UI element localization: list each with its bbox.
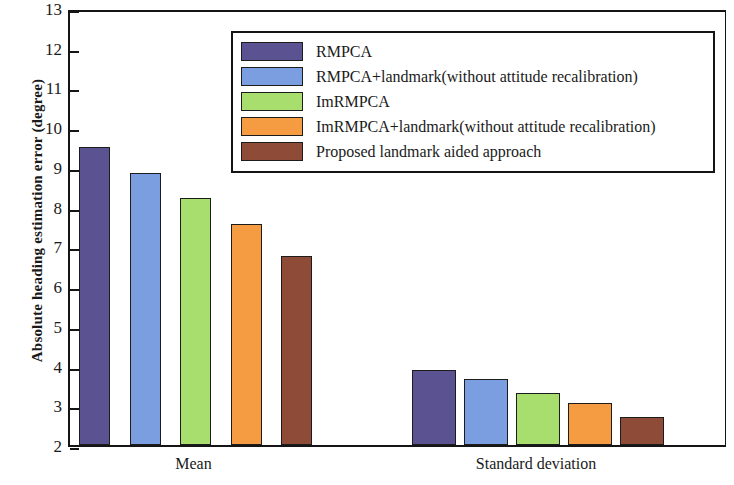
legend-color-swatch [241, 142, 303, 161]
y-axis-tick-label: 5 [16, 319, 62, 336]
y-axis-tick-label: 8 [16, 200, 62, 217]
x-axis-tick-label: Mean [17, 455, 370, 473]
y-axis-tick [70, 448, 79, 450]
y-axis-tick-label: 13 [16, 1, 62, 18]
bar [568, 403, 612, 445]
chart-legend: RMPCARMPCA+landmark(without attitude rec… [231, 31, 715, 173]
y-axis-tick-label: 9 [16, 160, 62, 177]
x-axis-tick-label: Standard deviation [350, 455, 722, 473]
legend-color-swatch [241, 117, 303, 136]
bar [79, 147, 110, 445]
legend-item-label: Proposed landmark aided approach [316, 144, 541, 160]
y-axis-tick-label: 11 [16, 80, 62, 97]
bar-chart-figure: Absolute heading estimation error (degre… [0, 0, 734, 485]
bar [412, 370, 456, 445]
y-axis-tick-label: 2 [16, 438, 62, 455]
y-axis-tick-label: 4 [16, 359, 62, 376]
legend-item: ImRMPCA [241, 89, 705, 114]
bar [180, 198, 211, 445]
legend-item-label: RMPCA+landmark(without attitude recalibr… [316, 69, 638, 85]
y-axis-tick-label: 3 [16, 398, 62, 415]
legend-color-swatch [241, 42, 303, 61]
legend-item: Proposed landmark aided approach [241, 139, 705, 164]
legend-item-label: ImRMPCA [316, 94, 390, 110]
bar [516, 393, 560, 445]
bar [130, 173, 161, 445]
bar [464, 379, 508, 445]
legend-item-label: RMPCA [316, 44, 372, 60]
legend-item: RMPCA+landmark(without attitude recalibr… [241, 64, 705, 89]
bar [281, 256, 312, 445]
y-axis-tick-label: 10 [16, 120, 62, 137]
y-axis-tick-label: 6 [16, 279, 62, 296]
legend-item-label: ImRMPCA+landmark(without attitude recali… [316, 119, 656, 135]
y-axis-tick-label: 7 [16, 239, 62, 256]
bar [231, 224, 262, 445]
legend-item: RMPCA [241, 39, 705, 64]
legend-color-swatch [241, 92, 303, 111]
bar [620, 417, 664, 445]
legend-color-swatch [241, 67, 303, 86]
y-axis-tick-label: 12 [16, 41, 62, 58]
legend-item: ImRMPCA+landmark(without attitude recali… [241, 114, 705, 139]
